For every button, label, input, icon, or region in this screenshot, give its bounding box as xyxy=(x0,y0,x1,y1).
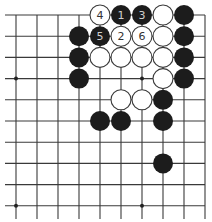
black-stone[interactable] xyxy=(69,47,89,67)
black-stone[interactable] xyxy=(111,111,131,131)
star-point xyxy=(140,77,144,81)
white-stone[interactable]: 4 xyxy=(90,5,110,25)
white-stone[interactable] xyxy=(132,47,152,67)
white-stone[interactable]: 6 xyxy=(132,26,152,46)
star-point xyxy=(14,204,18,208)
black-stone[interactable] xyxy=(90,111,110,131)
move-number: 2 xyxy=(118,30,125,43)
black-stone[interactable] xyxy=(153,111,173,131)
star-point xyxy=(140,204,144,208)
move-number: 3 xyxy=(139,9,146,22)
black-stone[interactable] xyxy=(174,5,194,25)
white-stone[interactable] xyxy=(111,90,131,110)
stones-layer: 413526 xyxy=(69,5,194,173)
white-stone[interactable] xyxy=(153,47,173,67)
white-stone[interactable] xyxy=(111,47,131,67)
go-board[interactable]: 413526 xyxy=(0,0,212,222)
move-number: 6 xyxy=(139,30,146,43)
white-stone[interactable] xyxy=(153,5,173,25)
black-stone[interactable] xyxy=(174,69,194,89)
black-stone[interactable] xyxy=(174,26,194,46)
white-stone[interactable] xyxy=(153,26,173,46)
black-stone[interactable]: 3 xyxy=(132,5,152,25)
move-number: 4 xyxy=(97,9,104,22)
black-stone[interactable] xyxy=(69,69,89,89)
white-stone[interactable] xyxy=(90,47,110,67)
black-stone[interactable]: 1 xyxy=(111,5,131,25)
white-stone[interactable] xyxy=(153,69,173,89)
white-stone[interactable] xyxy=(132,90,152,110)
black-stone[interactable] xyxy=(153,153,173,173)
white-stone[interactable]: 2 xyxy=(111,26,131,46)
black-stone[interactable] xyxy=(153,90,173,110)
black-stone[interactable]: 5 xyxy=(90,26,110,46)
move-number: 5 xyxy=(97,30,104,43)
star-point xyxy=(14,77,18,81)
black-stone[interactable] xyxy=(174,47,194,67)
black-stone[interactable] xyxy=(69,26,89,46)
move-number: 1 xyxy=(118,9,125,22)
